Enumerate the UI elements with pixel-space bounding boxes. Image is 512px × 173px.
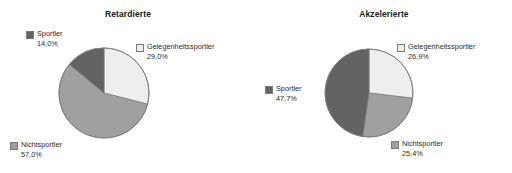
legend-swatch-icon-gelegenheitssportler xyxy=(397,44,405,52)
legend-text-sportler: Sportler47,7% xyxy=(276,84,302,103)
legend-item-gelegenheitssportler[interactable]: Gelegenheitssportler26,9% xyxy=(397,42,475,61)
legend-item-sportler[interactable]: Sportler14,0% xyxy=(26,29,63,48)
legend-item-nichtsportler[interactable]: Nichtsportler57,0% xyxy=(10,140,62,159)
legend-text-sportler: Sportler14,0% xyxy=(37,29,63,48)
pie-slice-nichtsportler[interactable] xyxy=(363,93,413,137)
legend-value-sportler: 47,7% xyxy=(276,94,302,104)
legend-text-gelegenheitssportler: Gelegenheitssportler29,0% xyxy=(147,42,214,61)
legend-value-gelegenheitssportler: 29,0% xyxy=(147,52,214,62)
legend-value-nichtsportler: 25,4% xyxy=(402,149,443,159)
legend-value-sportler: 14,0% xyxy=(37,39,63,49)
legend-value-gelegenheitssportler: 26,9% xyxy=(408,52,475,62)
chart-panel-retardierte: Retardierte Sportler14,0%Gelegenheitsspo… xyxy=(0,0,256,173)
legend-item-nichtsportler[interactable]: Nichtsportler25,4% xyxy=(391,139,443,158)
legend-value-nichtsportler: 57,0% xyxy=(21,150,62,160)
legend-swatch-icon-nichtsportler xyxy=(391,141,399,149)
legend-label-nichtsportler: Nichtsportler xyxy=(21,140,62,149)
legend-swatch-icon-gelegenheitssportler xyxy=(136,44,144,52)
legend-swatch-icon-sportler xyxy=(265,86,273,94)
legend-text-nichtsportler: Nichtsportler25,4% xyxy=(402,139,443,158)
legend-label-gelegenheitssportler: Gelegenheitssportler xyxy=(147,42,214,51)
chart-title-retardierte: Retardierte xyxy=(0,9,256,19)
legend-swatch-icon-sportler xyxy=(26,31,34,39)
legend-swatch-icon-nichtsportler xyxy=(10,142,18,150)
legend-item-gelegenheitssportler[interactable]: Gelegenheitssportler29,0% xyxy=(136,42,214,61)
legend-label-sportler: Sportler xyxy=(37,29,63,38)
legend-item-sportler[interactable]: Sportler47,7% xyxy=(265,84,302,103)
legend-label-nichtsportler: Nichtsportler xyxy=(402,139,443,148)
pie-slice-sportler[interactable] xyxy=(325,49,369,137)
legend-text-gelegenheitssportler: Gelegenheitssportler26,9% xyxy=(408,42,475,61)
chart-title-akzelerierte: Akzelerierte xyxy=(256,9,512,19)
legend-text-nichtsportler: Nichtsportler57,0% xyxy=(21,140,62,159)
legend-label-gelegenheitssportler: Gelegenheitssportler xyxy=(408,42,475,51)
legend-label-sportler: Sportler xyxy=(276,84,302,93)
chart-panel-akzelerierte: Akzelerierte Gelegenheitssportler26,9%Sp… xyxy=(256,0,512,173)
